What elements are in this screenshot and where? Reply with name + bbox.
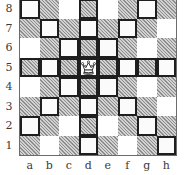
square-a5 (20, 58, 40, 78)
square-a6 (20, 38, 40, 58)
square-b5 (40, 58, 60, 78)
square-b1 (40, 136, 60, 156)
square-h6 (157, 38, 177, 58)
file-label-h: h (157, 160, 177, 172)
square-f1 (118, 136, 138, 156)
white-queen-icon (79, 58, 99, 78)
square-c7 (59, 19, 79, 39)
square-d1 (79, 136, 99, 156)
rank-label-3: 3 (4, 101, 14, 113)
square-g8 (137, 0, 157, 19)
square-b4 (40, 77, 60, 97)
square-e1 (98, 136, 118, 156)
square-a2 (20, 116, 40, 136)
square-f5 (118, 58, 138, 78)
file-label-b: b (40, 160, 60, 172)
rank-label-2: 2 (4, 120, 14, 132)
square-d8 (79, 0, 99, 19)
square-g7 (137, 19, 157, 39)
chessboard (19, 0, 177, 156)
square-c5 (59, 58, 79, 78)
square-a7 (20, 19, 40, 39)
square-e4 (98, 77, 118, 97)
square-e3 (98, 97, 118, 117)
square-e5 (98, 58, 118, 78)
square-g3 (137, 97, 157, 117)
square-c8 (59, 0, 79, 19)
square-c3 (59, 97, 79, 117)
square-h7 (157, 19, 177, 39)
rank-label-5: 5 (4, 62, 14, 74)
rank-label-4: 4 (4, 81, 14, 93)
square-d4 (79, 77, 99, 97)
square-g1 (137, 136, 157, 156)
square-c1 (59, 136, 79, 156)
square-b8 (40, 0, 60, 19)
square-h8 (157, 0, 177, 19)
square-a1 (20, 136, 40, 156)
square-f3 (118, 97, 138, 117)
square-f4 (118, 77, 138, 97)
rank-label-8: 8 (4, 3, 14, 15)
square-f8 (118, 0, 138, 19)
square-h1 (157, 136, 177, 156)
file-label-f: f (118, 160, 138, 172)
file-label-g: g (137, 160, 157, 172)
square-c6 (59, 38, 79, 58)
file-label-c: c (59, 160, 79, 172)
square-f2 (118, 116, 138, 136)
square-g5 (137, 58, 157, 78)
square-d5 (79, 58, 99, 78)
square-d6 (79, 38, 99, 58)
file-label-a: a (20, 160, 40, 172)
square-d3 (79, 97, 99, 117)
rank-label-6: 6 (4, 42, 14, 54)
square-g2 (137, 116, 157, 136)
square-d2 (79, 116, 99, 136)
square-d7 (79, 19, 99, 39)
file-label-e: e (98, 160, 118, 172)
square-e6 (98, 38, 118, 58)
square-h2 (157, 116, 177, 136)
square-h4 (157, 77, 177, 97)
square-e8 (98, 0, 118, 19)
square-a3 (20, 97, 40, 117)
square-a8 (20, 0, 40, 19)
square-g6 (137, 38, 157, 58)
rank-label-7: 7 (4, 23, 14, 35)
square-b6 (40, 38, 60, 58)
square-f7 (118, 19, 138, 39)
square-e7 (98, 19, 118, 39)
square-a4 (20, 77, 40, 97)
square-h3 (157, 97, 177, 117)
rank-label-1: 1 (4, 140, 14, 152)
square-c4 (59, 77, 79, 97)
file-label-d: d (79, 160, 99, 172)
square-e2 (98, 116, 118, 136)
square-b2 (40, 116, 60, 136)
square-g4 (137, 77, 157, 97)
square-b3 (40, 97, 60, 117)
square-h5 (157, 58, 177, 78)
square-f6 (118, 38, 138, 58)
square-b7 (40, 19, 60, 39)
square-c2 (59, 116, 79, 136)
